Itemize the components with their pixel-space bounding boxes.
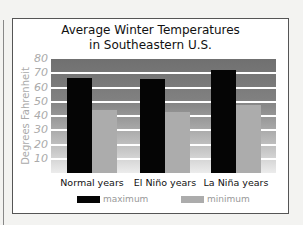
legend-swatch-minimum — [181, 196, 204, 203]
y-tick-label: 60 — [28, 82, 48, 93]
bar-minimum — [92, 110, 117, 173]
legend-label-minimum: minimum — [207, 194, 250, 204]
bar-maximum — [211, 70, 236, 173]
x-tick-label: El Niño years — [125, 177, 205, 188]
bar-maximum — [140, 79, 165, 173]
plot-area — [51, 59, 276, 173]
y-tick-label: 80 — [28, 53, 48, 64]
y-tick-label: 40 — [28, 110, 48, 121]
y-tick-label: 70 — [28, 67, 48, 78]
legend-swatch-maximum — [77, 196, 100, 203]
y-tick-label: 20 — [28, 139, 48, 150]
chart-title-line-2: in Southeastern U.S. — [12, 38, 289, 53]
chart-title-line-1: Average Winter Temperatures — [12, 23, 289, 38]
x-tick-label: La Niña years — [196, 177, 276, 188]
legend-label-maximum: maximum — [103, 194, 148, 204]
y-tick-label: 50 — [28, 96, 48, 107]
x-tick-label: Normal years — [52, 177, 132, 188]
bar-maximum — [67, 78, 92, 173]
y-tick-label: 30 — [28, 124, 48, 135]
bar-minimum — [236, 105, 261, 173]
gridline — [51, 72, 276, 74]
bar-minimum — [165, 112, 190, 173]
left-border-line — [3, 20, 4, 225]
y-tick-label: 10 — [28, 153, 48, 164]
